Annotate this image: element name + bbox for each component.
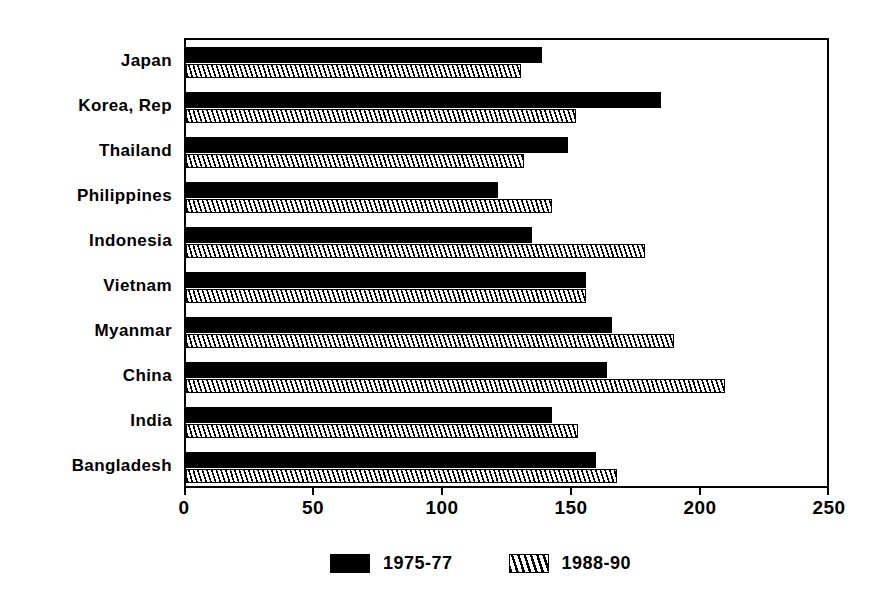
bar-1975-77 [186,272,586,288]
legend-label: 1975-77 [383,553,453,574]
x-tick-label: 200 [660,497,740,519]
bar-1988-90 [186,289,586,303]
bar-1975-77 [186,362,607,378]
x-axis-ticks [184,486,829,495]
legend-swatch-solid-icon [330,554,370,573]
legend-label: 1988-90 [562,553,632,574]
bar-1975-77 [186,182,498,198]
x-tick [184,486,186,495]
category-label: China [0,367,172,385]
bar-1988-90 [186,334,674,348]
bar-1988-90 [186,244,645,258]
legend-swatch-hatch-icon [509,554,549,573]
category-label: Indonesia [0,232,172,250]
category-label: Thailand [0,142,172,160]
x-tick [699,486,701,495]
category-label: Japan [0,52,172,70]
bar-1975-77 [186,407,552,423]
plot-area [184,38,829,488]
category-label: Philippines [0,187,172,205]
bar-1975-77 [186,317,612,333]
bars-container [186,40,827,486]
x-tick [312,486,314,495]
bar-chart-figure: JapanKorea, RepThailandPhilippinesIndone… [0,0,872,598]
bar-1975-77 [186,47,542,63]
bar-1988-90 [186,109,576,123]
x-tick-label: 50 [273,497,353,519]
x-tick-label: 100 [402,497,482,519]
bar-1975-77 [186,92,661,108]
legend-entry: 1988-90 [509,553,632,574]
x-tick-label: 250 [789,497,869,519]
category-label: Korea, Rep [0,97,172,115]
bar-1975-77 [186,137,568,153]
bar-1988-90 [186,199,552,213]
category-label: Myanmar [0,322,172,340]
bar-1988-90 [186,154,524,168]
bar-1988-90 [186,424,578,438]
category-label: Vietnam [0,277,172,295]
category-label: India [0,412,172,430]
category-axis-labels: JapanKorea, RepThailandPhilippinesIndone… [0,38,172,488]
x-tick-label: 0 [144,497,224,519]
bar-1975-77 [186,227,532,243]
bar-1988-90 [186,379,725,393]
bar-1988-90 [186,64,521,78]
bar-1988-90 [186,469,617,483]
bar-1975-77 [186,452,596,468]
legend-entry: 1975-77 [330,553,453,574]
category-label: Bangladesh [0,457,172,475]
x-tick [827,486,829,495]
x-axis-tick-labels: 050100150200250 [184,497,829,523]
x-tick [441,486,443,495]
chart-legend: 1975-771988-90 [330,550,631,576]
x-tick [570,486,572,495]
x-tick-label: 150 [531,497,611,519]
